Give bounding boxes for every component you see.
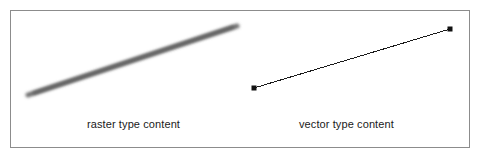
figure-root: raster type content vector type content bbox=[0, 0, 483, 158]
raster-panel-caption: raster type content bbox=[87, 118, 180, 131]
vector-panel-caption: vector type content bbox=[299, 118, 394, 131]
figure-border-frame bbox=[10, 10, 470, 148]
